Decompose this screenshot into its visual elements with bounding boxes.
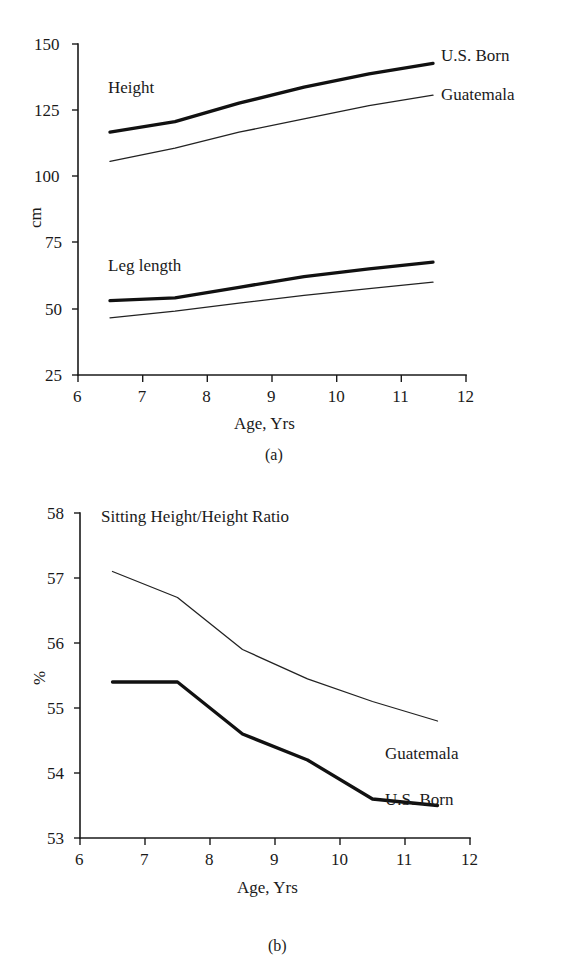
panel-a-x-axis-title: Age, Yrs xyxy=(234,415,295,432)
panel-a-x-ticks xyxy=(78,375,466,382)
panel-b-xtick-12: 12 xyxy=(461,851,478,868)
panel-a-ytick-100: 100 xyxy=(34,168,60,185)
panel-a-tag: (a) xyxy=(265,447,283,463)
annotation-sitting-height-ratio: Sitting Height/Height Ratio xyxy=(101,508,289,525)
panel-a-xtick-7: 7 xyxy=(138,388,147,405)
panel-a-xtick-8: 8 xyxy=(202,388,211,405)
series-ratio-guatemala xyxy=(113,572,438,722)
panel-b-x-axis-title: Age, Yrs xyxy=(237,879,298,896)
panel-a-y-ticks xyxy=(72,44,78,375)
panel-a-ytick-150: 150 xyxy=(34,36,60,53)
panel-b-xtick-6: 6 xyxy=(75,851,84,868)
panel-b-xtick-11: 11 xyxy=(396,851,412,868)
panel-a-xtick-11: 11 xyxy=(392,388,408,405)
panel-b-xtick-8: 8 xyxy=(205,851,214,868)
panel-b-ytick-53: 53 xyxy=(47,830,64,847)
panel-a-ytick-25: 25 xyxy=(45,367,62,384)
series-height-guatemala xyxy=(110,95,433,161)
panel-b-y-ticks xyxy=(74,513,80,838)
panel-a-plot xyxy=(0,0,565,470)
series-label-us-born-b: U.S. Born xyxy=(385,791,453,808)
annotation-leg-length: Leg length xyxy=(108,257,181,274)
series-label-guatemala: Guatemala xyxy=(441,86,515,103)
panel-b-ytick-54: 54 xyxy=(47,765,64,782)
panel-b-ytick-57: 57 xyxy=(47,570,64,587)
panel-b-tag: (b) xyxy=(268,938,287,954)
panel-a-ytick-50: 50 xyxy=(45,301,62,318)
series-label-us-born: U.S. Born xyxy=(441,47,509,64)
panel-b: 58 57 56 55 54 53 6 7 8 9 10 11 12 % Age… xyxy=(0,470,565,965)
panel-b-ytick-56: 56 xyxy=(47,635,64,652)
annotation-height: Height xyxy=(108,79,154,96)
panel-b-ytick-58: 58 xyxy=(47,505,64,522)
panel-b-x-ticks xyxy=(80,838,470,845)
panel-a-y-axis-title: cm xyxy=(26,207,46,228)
panel-b-xtick-7: 7 xyxy=(140,851,149,868)
panel-b-y-axis-title: % xyxy=(30,671,50,685)
panel-a-ytick-125: 125 xyxy=(34,102,60,119)
panel-a-xtick-6: 6 xyxy=(73,388,82,405)
panel-b-xtick-9: 9 xyxy=(270,851,279,868)
series-label-guatemala-b: Guatemala xyxy=(385,745,459,762)
panel-a-ytick-75: 75 xyxy=(45,234,62,251)
series-height-us-born xyxy=(110,63,433,132)
panel-a-xtick-12: 12 xyxy=(457,388,474,405)
panel-a: 150 125 100 75 50 25 6 7 8 9 10 11 12 cm… xyxy=(0,0,565,470)
panel-b-ytick-55: 55 xyxy=(47,700,64,717)
panel-b-xtick-10: 10 xyxy=(331,851,348,868)
panel-a-xtick-9: 9 xyxy=(267,388,276,405)
panel-a-xtick-10: 10 xyxy=(328,388,345,405)
